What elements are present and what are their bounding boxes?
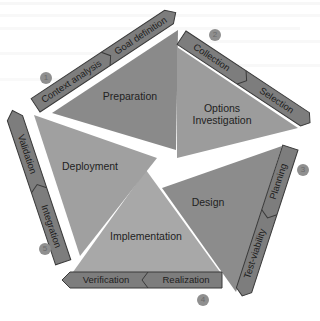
phase-title-deployment: Deployment [62, 160, 118, 172]
step-realization: Realization [163, 274, 210, 285]
phase-title-implementation: Implementation [110, 230, 182, 242]
phase-number-4: 4 [201, 295, 206, 304]
process-cycle-diagram: Context analysis Goal definition Prepara… [0, 0, 320, 321]
phase-number-2: 2 [213, 30, 218, 39]
phase-number-3: 3 [301, 165, 306, 174]
phase-number-1: 1 [44, 73, 49, 82]
phase-options-investigation: Collection Selection Options Investigati… [177, 29, 314, 158]
phase-title-investigation: Investigation [193, 114, 252, 126]
step-verification: Verification [83, 274, 129, 285]
phase-number-5: 5 [43, 244, 48, 253]
phase-title-options: Options [204, 102, 240, 114]
phase-title-preparation: Preparation [103, 90, 157, 102]
phase-title-design: Design [192, 196, 225, 208]
